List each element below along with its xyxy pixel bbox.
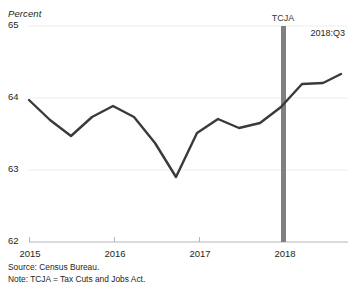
xtick-label-2018: 2018: [262, 248, 308, 259]
xtick-label-2017: 2017: [177, 248, 223, 259]
definition-footnote: Note: TCJA = Tax Cuts and Jobs Act.: [8, 274, 145, 284]
source-footnote: Source: Census Bureau.: [8, 262, 99, 272]
ytick-label-62: 62: [8, 235, 30, 246]
data-line-percent: [29, 74, 341, 177]
ytick-label-64: 64: [8, 91, 30, 102]
line-chart-plot: [0, 0, 356, 290]
endpoint-annotation-label: 2018:Q3: [275, 28, 345, 38]
ytick-label-65: 65: [8, 19, 30, 30]
xtick-label-2015: 2015: [7, 248, 53, 259]
xtick-label-2016: 2016: [92, 248, 138, 259]
ytick-label-63: 63: [8, 163, 30, 174]
chart-figure: Percent 65 64 63 62 2015 2016 2017 2018 …: [0, 0, 356, 290]
tcja-annotation-label: TCJA: [260, 13, 306, 23]
tcja-marker-bar: [281, 26, 286, 242]
